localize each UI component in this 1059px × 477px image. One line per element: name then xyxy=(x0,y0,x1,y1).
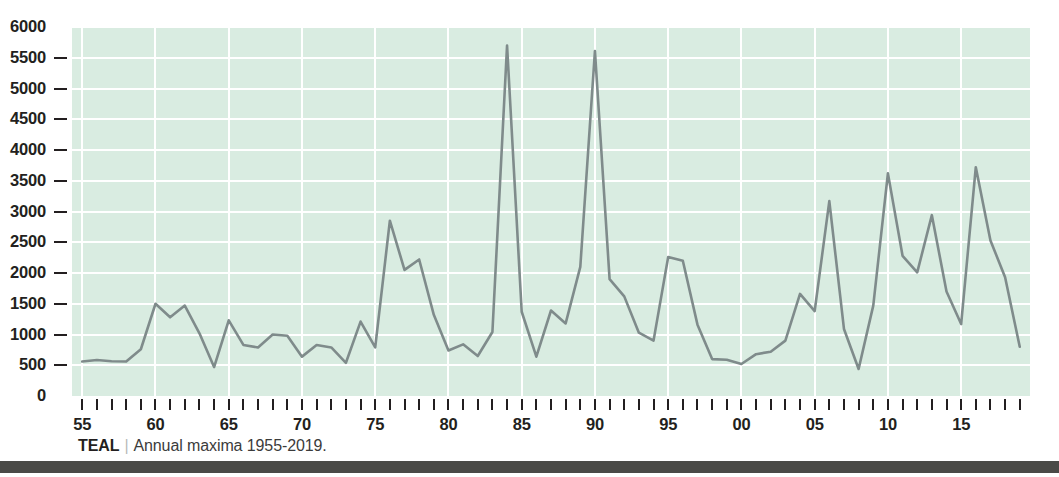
figure-caption: TEAL|Annual maxima 1955-2019. xyxy=(78,437,327,455)
caption-separator: | xyxy=(119,437,133,454)
caption-source: TEAL xyxy=(78,437,119,454)
bottom-bar xyxy=(0,461,1059,473)
caption-text: Annual maxima 1955-2019. xyxy=(133,437,326,454)
data-line-annual-maxima xyxy=(82,45,1020,368)
series-layer xyxy=(0,0,1059,477)
chart-figure: 0500100015002000250030003500400045005000… xyxy=(0,0,1059,477)
